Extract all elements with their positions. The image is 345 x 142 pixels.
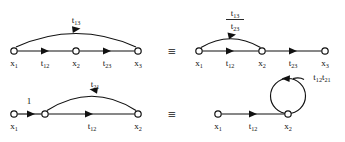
fraction-label-t13-over-t23: t13 t23 [226,8,244,32]
node-x1[interactable] [11,48,17,54]
node-label-x1: x1 [10,121,18,132]
node-label-x1: x1 [10,58,18,69]
node-x2[interactable] [73,48,79,54]
node-intermediate[interactable] [42,111,48,117]
edge-x1-x2-arrowhead [226,48,234,55]
node-label-x2: x2 [258,58,266,69]
top-right-graph: x1 x2 x3 t12 t23 t13 t23 [195,8,329,69]
equivalence-symbol-top: ≡ [168,44,176,59]
edge-x2-x3-arrowhead [289,48,297,55]
edge-label-t23: t23 [103,58,112,69]
self-loop-circle [271,79,306,114]
fraction-numerator: t13 [231,8,240,19]
edge-label-t12: t12 [249,121,258,132]
node-x1[interactable] [11,111,17,117]
edge-x1-x3-arrowhead [72,26,81,33]
edge-label-t12: t12 [226,58,235,69]
edge-unity-arrowhead [27,111,35,118]
node-x2[interactable] [285,111,291,117]
edge-x2-x1-arc [47,96,136,110]
figure-root: x1 x2 x3 t12 t23 t13 ≡ x1 [0,0,345,142]
equivalence-symbol-bottom: ≡ [168,107,176,122]
edge-x1-x2-arrowhead [41,48,49,55]
node-x1[interactable] [196,48,202,54]
node-x2[interactable] [135,111,141,117]
edge-label-t12: t12 [41,58,50,69]
node-label-x1: x1 [214,121,222,132]
fraction-denominator: t23 [231,21,240,32]
node-label-x2: x2 [284,121,292,132]
edge-label-t21: t21 [91,79,100,90]
node-label-x1: x1 [195,58,203,69]
node-x2[interactable] [259,48,265,54]
node-label-x2: x2 [134,121,142,132]
edge-x2-x3-arrowhead [103,48,111,55]
node-x3[interactable] [135,48,141,54]
edge-x1-x3-arc [16,34,136,48]
edge-label-t23: t23 [289,58,298,69]
edge-label-unity: 1 [27,96,32,106]
edge-x1-x2-arrowhead [249,111,257,118]
self-loop-label: t12t21 [313,72,330,83]
bottom-left-graph: x1 x2 1 t12 t21 [10,79,142,132]
edge-label-t12: t12 [88,121,97,132]
node-label-x3: x3 [321,58,329,69]
edge-x1-x2-arrowhead [85,111,93,118]
top-left-graph: x1 x2 x3 t12 t23 t13 [10,15,142,69]
signal-flow-graph-canvas: x1 x2 x3 t12 t23 t13 ≡ x1 [0,0,345,142]
node-label-x2: x2 [72,58,80,69]
node-x3[interactable] [322,48,328,54]
node-label-x3: x3 [134,58,142,69]
node-x1[interactable] [215,111,221,117]
bottom-right-graph: x1 x2 t12 t12t21 [214,72,331,132]
self-loop-arrowhead [282,75,291,82]
edge-label-t13: t13 [72,15,81,26]
edge-x1-x2-arc [201,39,261,48]
